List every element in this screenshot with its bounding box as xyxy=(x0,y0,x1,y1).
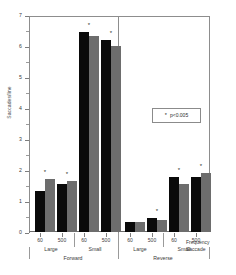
axis-title-saccade: Saccade xyxy=(186,246,205,252)
chart-figure: Saccades/line 7 6 5 4 3 2 1 0 ******* * … xyxy=(0,0,236,275)
y-tick-label-0: 0 xyxy=(0,230,22,235)
significance-star-group-1: * xyxy=(62,171,72,177)
bar-forward-large-60-black-series xyxy=(35,191,45,232)
x-label-freq-4: 60 xyxy=(119,238,141,243)
bar-reverse-large-500-black-series xyxy=(147,218,157,232)
bar-reverse-large-60-gray-series xyxy=(135,222,145,232)
y-axis-title: Saccades/line xyxy=(7,72,12,134)
direction-separator xyxy=(29,247,30,259)
significance-star-group-2: * xyxy=(84,22,94,28)
y-tick-label-4: 4 xyxy=(0,106,22,111)
x-label-freq-2: 60 xyxy=(73,238,95,243)
bar-forward-small-60-gray-series xyxy=(89,36,99,232)
significance-star-group-7: * xyxy=(196,163,206,169)
y-tick-label-7: 7 xyxy=(0,13,22,18)
bar-reverse-large-500-gray-series xyxy=(157,220,167,232)
bar-reverse-small-60-gray-series xyxy=(179,184,189,232)
bar-forward-small-60-black-series xyxy=(79,32,89,232)
y-tick-0 xyxy=(25,233,29,234)
bar-forward-large-500-black-series xyxy=(57,184,67,232)
x-label-size-large-reverse: Large xyxy=(120,247,160,252)
group-separator xyxy=(163,233,164,247)
x-label-freq-3: 500 xyxy=(95,238,117,243)
axis-title-frequency: Frequency xyxy=(186,239,210,245)
legend-p-value-text: p<0.005 xyxy=(170,113,188,118)
y-tick-label-5: 5 xyxy=(0,75,22,80)
bar-forward-large-500-gray-series xyxy=(67,181,77,232)
x-label-size-small-forward: Small xyxy=(75,247,115,252)
y-tick-label-6: 6 xyxy=(0,44,22,49)
bars-layer: ******* xyxy=(30,17,209,232)
bar-reverse-small-500-black-series xyxy=(191,177,201,232)
significance-legend: * p<0.005 xyxy=(152,108,201,123)
x-label-direction-reverse: Reverse xyxy=(128,256,198,261)
x-label-freq-5: 500 xyxy=(141,238,163,243)
x-label-freq-1: 500 xyxy=(51,238,73,243)
significance-star-group-3: * xyxy=(106,30,116,36)
significance-star-group-6: * xyxy=(174,167,184,173)
group-separator xyxy=(74,233,75,247)
bar-forward-small-500-gray-series xyxy=(111,46,121,232)
y-tick-label-2: 2 xyxy=(0,168,22,173)
bar-reverse-small-60-black-series xyxy=(169,177,179,232)
bar-reverse-small-500-gray-series xyxy=(201,173,211,232)
legend-star-icon: * xyxy=(165,113,167,119)
group-separator xyxy=(118,233,119,247)
bar-forward-large-60-gray-series xyxy=(45,179,55,232)
y-tick-label-3: 3 xyxy=(0,137,22,142)
y-tick-label-1: 1 xyxy=(0,199,22,204)
bar-forward-small-500-black-series xyxy=(101,40,111,232)
x-label-freq-0: 60 xyxy=(29,238,51,243)
x-label-direction-forward: Forward xyxy=(38,256,108,261)
bar-reverse-large-60-black-series xyxy=(125,222,135,232)
significance-star-group-5: * xyxy=(152,208,162,214)
direction-separator xyxy=(209,247,210,259)
direction-separator xyxy=(118,247,119,259)
x-label-size-large-forward: Large xyxy=(31,247,71,252)
significance-star-group-0: * xyxy=(40,169,50,175)
x-label-freq-6: 60 xyxy=(163,238,185,243)
